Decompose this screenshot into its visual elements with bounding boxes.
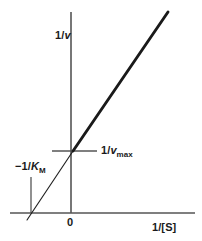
regression-line-measured (73, 12, 168, 151)
regression-line-extrapolated (27, 148, 75, 220)
origin-label: 0 (67, 217, 73, 228)
y-axis-label: 1/v (55, 30, 71, 41)
x-intercept-label-subscript: M (39, 166, 46, 175)
x-intercept-label-prefix: −1/ (15, 160, 31, 172)
lineweaver-burk-plot: 1/v 1/[S] 0 1/vmax −1/KM (0, 0, 202, 241)
plot-canvas (0, 0, 202, 241)
y-axis-label-variable: v (64, 29, 70, 41)
x-axis-label: 1/[S] (152, 222, 176, 233)
y-intercept-label-prefix: 1/ (101, 144, 110, 156)
y-intercept-label-subscript: max (117, 150, 133, 159)
x-intercept-label-variable: K (31, 160, 39, 172)
y-axis-label-prefix: 1/ (55, 29, 64, 41)
y-intercept-label: 1/vmax (101, 145, 133, 156)
x-intercept-label: −1/KM (15, 161, 46, 172)
y-intercept-label-variable: v (110, 144, 116, 156)
